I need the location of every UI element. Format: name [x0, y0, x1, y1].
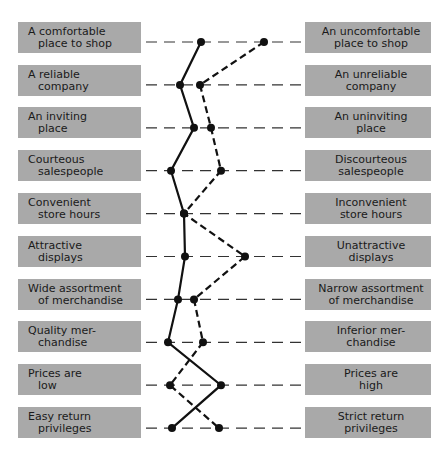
solid-profile-point	[176, 81, 184, 89]
dashed-profile-point	[166, 381, 174, 389]
solid-profile-point	[167, 167, 175, 175]
solid-profile-point	[217, 381, 225, 389]
dashed-profile-point	[199, 338, 207, 346]
dashed-profile-point	[190, 295, 198, 303]
dashed-profile-point	[260, 38, 268, 46]
solid-profile-point	[174, 295, 182, 303]
solid-profile-point	[197, 38, 205, 46]
dashed-profile-point	[241, 253, 249, 261]
solid-profile-point	[190, 124, 198, 132]
dashed-profile-point	[196, 81, 204, 89]
dashed-profile-point	[217, 167, 225, 175]
solid-profile-point	[168, 424, 176, 432]
solid-profile-point	[181, 253, 189, 261]
dashed-profile-point	[215, 424, 223, 432]
solid-profile-point	[164, 338, 172, 346]
profile-plot	[0, 0, 443, 455]
dashed-profile-point	[207, 124, 215, 132]
dashed-profile-point	[180, 210, 188, 218]
